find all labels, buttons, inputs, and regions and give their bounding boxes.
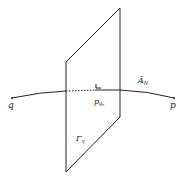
point-p: [173, 97, 175, 99]
geodesic-curve-right: [120, 90, 174, 98]
diagram-canvas: q p pθ* ÂN Γη: [0, 0, 186, 181]
geodesic-curve-hidden: [66, 90, 95, 91]
right-angle-mark: [96, 84, 101, 88]
label-p: p: [170, 100, 176, 110]
label-p-theta-star: pθ*: [94, 97, 104, 108]
label-q: q: [8, 100, 14, 110]
label-A-N: ÂN: [137, 76, 149, 86]
label-Gamma-eta: Γη: [75, 134, 85, 145]
geodesic-curve-left: [12, 91, 66, 98]
point-q: [11, 97, 13, 99]
